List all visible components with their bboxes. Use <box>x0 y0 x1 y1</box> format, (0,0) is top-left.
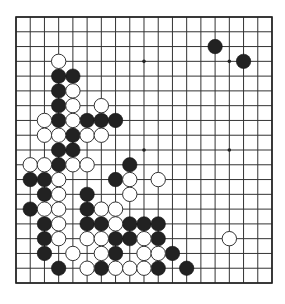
stones-layer <box>23 39 251 275</box>
white-stone <box>66 246 80 260</box>
black-stone <box>37 246 51 260</box>
black-stone <box>51 113 65 127</box>
white-stone <box>51 172 65 186</box>
star-point-icon <box>142 60 146 64</box>
white-stone <box>51 217 65 231</box>
star-point-icon <box>142 148 146 152</box>
black-stone <box>123 231 137 245</box>
black-stone <box>151 261 165 275</box>
white-stone <box>123 172 137 186</box>
white-stone <box>123 261 137 275</box>
white-stone <box>137 261 151 275</box>
black-stone <box>66 143 80 157</box>
white-stone <box>37 202 51 216</box>
black-stone <box>123 158 137 172</box>
white-stone <box>137 246 151 260</box>
white-stone <box>80 231 94 245</box>
black-stone <box>151 231 165 245</box>
black-stone <box>80 113 94 127</box>
white-stone <box>94 202 108 216</box>
white-stone <box>37 113 51 127</box>
black-stone <box>80 217 94 231</box>
white-stone <box>66 98 80 112</box>
black-stone <box>137 217 151 231</box>
white-stone <box>137 231 151 245</box>
white-stone <box>94 246 108 260</box>
black-stone <box>108 246 122 260</box>
white-stone <box>94 231 108 245</box>
black-stone <box>94 217 108 231</box>
white-stone <box>51 54 65 68</box>
black-stone <box>51 261 65 275</box>
white-stone <box>80 128 94 142</box>
black-stone <box>37 172 51 186</box>
white-stone <box>151 172 165 186</box>
white-stone <box>51 231 65 245</box>
black-stone <box>94 261 108 275</box>
black-stone <box>23 202 37 216</box>
black-stone <box>236 54 250 68</box>
white-stone <box>51 128 65 142</box>
white-stone <box>80 261 94 275</box>
black-stone <box>108 231 122 245</box>
white-stone <box>66 113 80 127</box>
black-stone <box>37 217 51 231</box>
black-stone <box>37 231 51 245</box>
black-stone <box>51 69 65 83</box>
star-point-icon <box>228 60 232 64</box>
white-stone <box>151 246 165 260</box>
black-stone <box>37 187 51 201</box>
white-stone <box>123 187 137 201</box>
white-stone <box>108 217 122 231</box>
white-stone <box>51 202 65 216</box>
white-stone <box>222 231 236 245</box>
black-stone <box>23 172 37 186</box>
black-stone <box>108 172 122 186</box>
black-stone <box>51 143 65 157</box>
black-stone <box>51 158 65 172</box>
black-stone <box>51 84 65 98</box>
go-board[interactable] <box>0 0 285 304</box>
black-stone <box>80 187 94 201</box>
black-stone <box>66 69 80 83</box>
white-stone <box>108 261 122 275</box>
white-stone <box>51 187 65 201</box>
white-stone <box>37 128 51 142</box>
black-stone <box>179 261 193 275</box>
black-stone <box>123 217 137 231</box>
white-stone <box>94 128 108 142</box>
black-stone <box>208 39 222 53</box>
white-stone <box>23 158 37 172</box>
white-stone <box>108 202 122 216</box>
white-stone <box>94 98 108 112</box>
black-stone <box>66 128 80 142</box>
white-stone <box>37 158 51 172</box>
white-stone <box>66 158 80 172</box>
white-stone <box>80 158 94 172</box>
black-stone <box>151 217 165 231</box>
black-stone <box>165 246 179 260</box>
black-stone <box>80 202 94 216</box>
star-point-icon <box>228 148 232 152</box>
black-stone <box>94 113 108 127</box>
black-stone <box>51 98 65 112</box>
black-stone <box>108 113 122 127</box>
white-stone <box>66 84 80 98</box>
